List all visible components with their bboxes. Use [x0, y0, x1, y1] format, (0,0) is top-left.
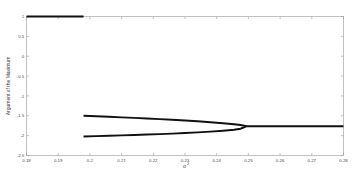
- y-axis-title: Argument of the Maximum: [5, 57, 11, 116]
- axes: [27, 17, 344, 156]
- x-tick-label: 0.22: [149, 158, 158, 163]
- y-tick-label: -1.5: [17, 113, 25, 118]
- y-tick-label: -1: [20, 94, 24, 99]
- y-tick-labels: 10.50-0.5-1-1.5-2-2.5: [17, 14, 25, 158]
- axis-titles: Argument of the Maximumσ2: [5, 57, 189, 169]
- x-tick-label: 0.18: [22, 158, 31, 163]
- x-tick-label: 0.28: [339, 158, 348, 163]
- x-axis-title: σ2: [183, 162, 189, 169]
- y-tick-label: -2: [20, 133, 24, 138]
- y-tick-label: 0.5: [18, 34, 25, 39]
- tick-marks: [27, 17, 344, 156]
- bifurcation-figure: 0.180.190.20.210.220.230.240.250.260.270…: [0, 0, 353, 179]
- x-tick-label: 0.24: [212, 158, 221, 163]
- x-tick-label: 0.2: [87, 158, 94, 163]
- curve-lower-branch: [84, 126, 247, 136]
- y-tick-label: 1: [22, 14, 25, 19]
- y-tick-label: -2.5: [17, 153, 25, 158]
- chart-canvas: 0.180.190.20.210.220.230.240.250.260.270…: [0, 0, 353, 179]
- x-tick-label: 0.27: [308, 158, 317, 163]
- data-curves: [27, 17, 344, 137]
- x-tick-label: 0.21: [117, 158, 126, 163]
- x-tick-label: 0.19: [54, 158, 63, 163]
- svg-text:2: 2: [187, 162, 189, 166]
- curve-middle-branch: [84, 116, 247, 126]
- x-tick-labels: 0.180.190.20.210.220.230.240.250.260.270…: [22, 158, 348, 163]
- x-tick-label: 0.26: [276, 158, 285, 163]
- y-tick-label: 0: [22, 54, 25, 59]
- y-tick-label: -0.5: [17, 74, 25, 79]
- x-tick-label: 0.25: [244, 158, 253, 163]
